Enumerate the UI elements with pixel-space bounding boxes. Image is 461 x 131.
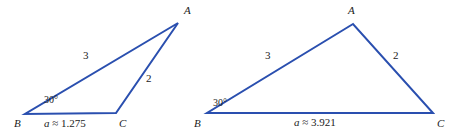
right-base-value: 3.921 — [311, 116, 336, 128]
right-triangle-path — [207, 24, 433, 113]
right-triangle-vertex-label-b: B — [194, 118, 201, 129]
left-triangle-side-label-b: 2 — [146, 73, 152, 84]
left-triangle-angle-label: 30° — [44, 95, 58, 105]
right-triangle-side-label-c: 3 — [265, 50, 271, 61]
left-base-relation: ≈ — [50, 117, 62, 129]
left-triangle-side-label-c: 3 — [83, 50, 89, 61]
left-triangle-vertex-label-a: A — [184, 5, 191, 16]
geometry-figure: A B C 3 2 30° a ≈ 1.275 A B C 3 2 30° a … — [0, 0, 461, 131]
left-triangle-vertex-label-c: C — [119, 118, 126, 129]
right-triangle-base-label: a ≈ 3.921 — [294, 117, 336, 128]
left-triangle-vertex-label-b: B — [14, 118, 21, 129]
left-triangle-base-label: a ≈ 1.275 — [44, 118, 86, 129]
right-triangle-vertex-label-a: A — [348, 5, 355, 16]
right-triangle-side-label-b: 2 — [393, 50, 399, 61]
right-triangle-angle-label: 30° — [213, 98, 227, 108]
right-base-relation: ≈ — [300, 116, 312, 128]
left-base-value: 1.275 — [61, 117, 86, 129]
triangles-svg — [0, 0, 461, 131]
right-triangle-vertex-label-c: C — [437, 118, 444, 129]
right-triangle-outline — [207, 24, 433, 113]
